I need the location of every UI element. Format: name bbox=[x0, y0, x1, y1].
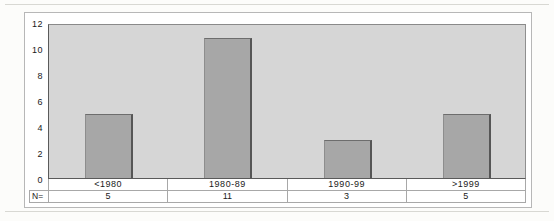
bar bbox=[85, 114, 133, 178]
count-table-row: N= 5 11 3 5 bbox=[29, 190, 526, 203]
count-row-header: N= bbox=[30, 191, 49, 202]
y-axis-tick-label: 2 bbox=[37, 149, 43, 159]
y-axis-tick-label: 0 bbox=[37, 175, 43, 185]
count-cell: 5 bbox=[49, 191, 167, 202]
x-axis-category-label: >1999 bbox=[406, 179, 525, 190]
y-axis: 12 10 8 6 4 2 0 bbox=[25, 19, 46, 185]
x-axis-category-label: 1980-89 bbox=[167, 179, 286, 190]
y-axis-tick-label: 6 bbox=[37, 97, 43, 107]
x-axis-category-label: <1980 bbox=[49, 179, 167, 190]
bar bbox=[324, 140, 372, 178]
chart-frame: 12 10 8 6 4 2 0 <1980 1980-89 1990-99 >1… bbox=[24, 12, 532, 208]
y-axis-tick-label: 10 bbox=[32, 45, 43, 55]
scan-artifact-line-top bbox=[5, 4, 549, 5]
y-axis-tick-label: 4 bbox=[37, 123, 43, 133]
x-axis-category-label: 1990-99 bbox=[287, 179, 406, 190]
y-axis-tick-label: 8 bbox=[37, 71, 43, 81]
count-cell: 11 bbox=[167, 191, 286, 202]
plot-area bbox=[48, 24, 526, 179]
x-axis-category-row: <1980 1980-89 1990-99 >1999 bbox=[48, 179, 526, 190]
bar bbox=[204, 38, 252, 178]
y-axis-tick-label: 12 bbox=[32, 19, 43, 29]
count-cell: 3 bbox=[287, 191, 406, 202]
count-cell: 5 bbox=[406, 191, 525, 202]
scan-artifact-line-bottom bbox=[5, 211, 549, 212]
bar bbox=[443, 114, 491, 178]
